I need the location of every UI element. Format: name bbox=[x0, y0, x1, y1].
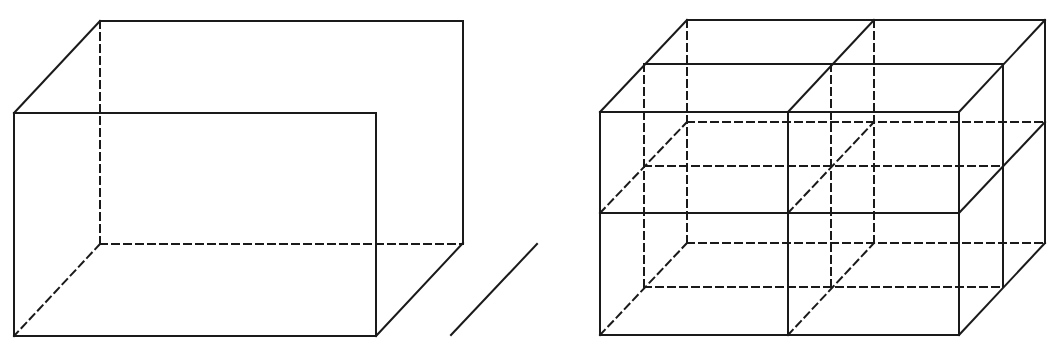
single-box bbox=[14, 21, 463, 336]
visible-edge bbox=[600, 20, 687, 112]
visible-edge bbox=[451, 244, 537, 335]
geometry-figures bbox=[0, 0, 1059, 350]
visible-edge bbox=[376, 243, 463, 336]
visible-edge bbox=[788, 20, 874, 112]
diagram-canvas: Rectangular box and box divided into 2x2… bbox=[0, 0, 1059, 350]
hidden-edge bbox=[14, 244, 100, 336]
divided-box bbox=[600, 20, 1045, 335]
stand-alone-line bbox=[451, 244, 537, 335]
visible-edge bbox=[14, 21, 100, 113]
